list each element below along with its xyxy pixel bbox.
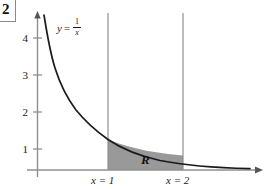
figure-number-box: 2 — [0, 0, 16, 22]
y-axis-arrowhead — [34, 11, 40, 19]
y-tick-label-3: 3 — [14, 69, 28, 81]
curve-y-equals-1-over-x — [44, 15, 250, 169]
curve-equation-variable: y — [57, 22, 62, 34]
curve-equation-label: y = 1 x — [57, 18, 81, 37]
y-tick-label-2: 2 — [14, 106, 28, 118]
curve-equation-numerator: 1 — [73, 18, 81, 27]
figure-container: 2 y = 1 x 4 3 2 1 x = 1 x = 2 R — [0, 0, 270, 189]
y-tick-label-1: 1 — [14, 143, 28, 155]
region-label-R: R — [141, 152, 150, 168]
graph-canvas — [0, 0, 270, 189]
curve-equation-equals: = — [64, 22, 70, 34]
figure-number-text: 2 — [2, 0, 10, 19]
curve-equation-denominator: x — [73, 28, 81, 37]
y-tick-label-4: 4 — [14, 32, 28, 44]
curve-equation-fraction: 1 x — [73, 18, 81, 37]
x-axis-arrowhead — [255, 167, 263, 174]
x-axis-label-x1: x = 1 — [91, 174, 114, 186]
x-axis-label-x2: x = 2 — [166, 174, 189, 186]
